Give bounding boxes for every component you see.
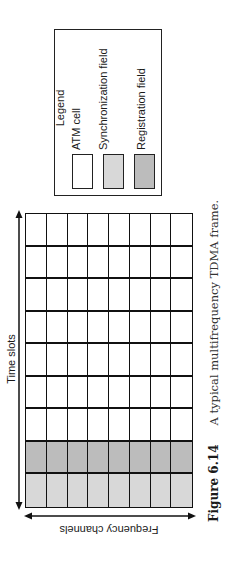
grid-cell-atm xyxy=(68,377,89,410)
grid-cell-atm xyxy=(88,409,109,442)
grid-cell-registration xyxy=(88,442,109,475)
grid-cell-atm xyxy=(109,312,130,345)
grid-cell-atm xyxy=(68,409,89,442)
grid-cell-atm xyxy=(171,247,192,280)
grid-cell-synchronization xyxy=(88,474,109,507)
grid-cell-atm xyxy=(88,344,109,377)
legend-label-registration-field: Registration field xyxy=(135,54,147,150)
grid-cell-synchronization xyxy=(130,474,151,507)
grid-cell-registration xyxy=(171,442,192,475)
legend-swatch-atm-cell xyxy=(72,154,93,189)
grid-cell-atm xyxy=(26,214,47,247)
grid-cell-atm xyxy=(171,377,192,410)
legend-label-atm-cell: ATM cell xyxy=(70,90,82,150)
legend-label-synchronization-field: Synchronization field xyxy=(97,34,109,150)
grid-cell-synchronization xyxy=(47,474,68,507)
grid-cell-atm xyxy=(151,279,172,312)
grid-cell-atm xyxy=(26,377,47,410)
grid-cell-atm xyxy=(171,344,192,377)
grid-cell-atm xyxy=(130,344,151,377)
grid-cell-atm xyxy=(171,214,192,247)
frequency-channels-label: Frequency channels xyxy=(52,524,166,536)
grid-cell-atm xyxy=(130,409,151,442)
grid-cell-synchronization xyxy=(109,474,130,507)
grid-cell-atm xyxy=(26,247,47,280)
grid-cell-atm xyxy=(109,214,130,247)
grid-cell-atm xyxy=(88,214,109,247)
grid-cell-atm xyxy=(88,279,109,312)
grid-cell-atm xyxy=(47,409,68,442)
caption-text: A typical multifrequency TDMA frame. xyxy=(207,200,221,426)
grid-cell-atm xyxy=(47,214,68,247)
grid-cell-atm xyxy=(26,344,47,377)
grid-cell-atm xyxy=(130,214,151,247)
grid-cell-registration xyxy=(26,442,47,475)
grid-cell-atm xyxy=(171,409,192,442)
legend-swatch-registration-field xyxy=(134,154,155,189)
grid-cell-atm xyxy=(26,409,47,442)
grid-cell-atm xyxy=(130,279,151,312)
grid-cell-atm xyxy=(47,344,68,377)
grid-cell-atm xyxy=(47,312,68,345)
grid-cell-atm xyxy=(130,247,151,280)
grid-cell-atm xyxy=(130,377,151,410)
grid-cell-registration xyxy=(130,442,151,475)
grid-cell-atm xyxy=(151,247,172,280)
grid-cell-atm xyxy=(151,312,172,345)
grid-cell-atm xyxy=(26,279,47,312)
grid-cell-atm xyxy=(68,214,89,247)
grid-cell-atm xyxy=(109,409,130,442)
grid-cell-atm xyxy=(151,409,172,442)
grid-cell-registration xyxy=(109,442,130,475)
grid-cell-atm xyxy=(171,279,192,312)
time-axis-arrow xyxy=(14,210,24,510)
tdma-frame-grid xyxy=(25,213,193,508)
frequency-axis-arrow xyxy=(24,511,196,521)
grid-cell-atm xyxy=(68,247,89,280)
grid-cell-atm xyxy=(171,312,192,345)
grid-cell-atm xyxy=(130,312,151,345)
grid-cell-synchronization xyxy=(26,474,47,507)
figure-caption: Figure 6.14 A typical multifrequency TDM… xyxy=(204,222,220,522)
grid-cell-atm xyxy=(68,312,89,345)
legend-title: Legend xyxy=(54,83,66,133)
figure-number: Figure 6.14 xyxy=(207,444,221,522)
grid-cell-atm xyxy=(151,214,172,247)
grid-cell-atm xyxy=(109,344,130,377)
grid-cell-synchronization xyxy=(151,474,172,507)
grid-cell-registration xyxy=(47,442,68,475)
grid-cell-atm xyxy=(26,312,47,345)
grid-cell-atm xyxy=(68,344,89,377)
grid-cell-synchronization xyxy=(68,474,89,507)
grid-cell-atm xyxy=(88,247,109,280)
grid-cell-atm xyxy=(47,247,68,280)
legend-swatch-synchronization-field xyxy=(103,154,124,189)
grid-cell-atm xyxy=(68,279,89,312)
grid-cell-atm xyxy=(88,312,109,345)
grid-cell-registration xyxy=(68,442,89,475)
grid-cell-atm xyxy=(88,377,109,410)
grid-cell-registration xyxy=(151,442,172,475)
grid-cell-atm xyxy=(151,344,172,377)
grid-cell-atm xyxy=(109,377,130,410)
grid-cell-synchronization xyxy=(171,474,192,507)
grid-cell-atm xyxy=(109,279,130,312)
grid-cell-atm xyxy=(151,377,172,410)
grid-cell-atm xyxy=(109,247,130,280)
grid-cell-atm xyxy=(47,377,68,410)
grid-cell-atm xyxy=(47,279,68,312)
